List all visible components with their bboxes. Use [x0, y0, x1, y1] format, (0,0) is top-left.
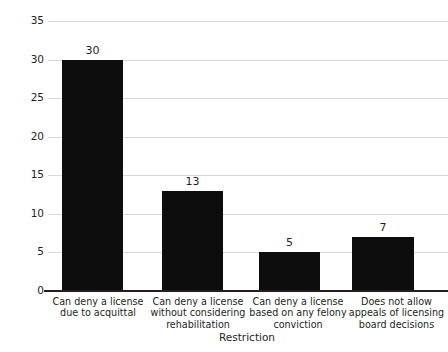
- y-axis-tick-label: 5: [20, 246, 44, 257]
- y-axis-tick-label: 0: [20, 285, 44, 296]
- bar-value-label: 13: [162, 175, 223, 188]
- x-axis-title: Restriction: [0, 331, 448, 343]
- x-axis-tick-label: Can deny a licensewithout consideringreh…: [148, 296, 248, 330]
- bar: [162, 191, 223, 291]
- x-axis-tick-label: Can deny a licensebased on any felonycon…: [248, 296, 348, 330]
- x-axis-tick-label-line: conviction: [248, 319, 348, 330]
- bar: [352, 237, 414, 291]
- bar: [62, 60, 123, 291]
- y-axis-tick-label: 10: [20, 208, 44, 219]
- bar-value-label: 5: [259, 236, 320, 249]
- y-axis-tick-label: 25: [20, 92, 44, 103]
- x-axis-tick-label-line: Can deny a license: [48, 296, 148, 307]
- plot-area: [48, 21, 448, 291]
- gridline: [48, 21, 448, 22]
- bar: [259, 252, 320, 291]
- x-axis-tick-label-line: due to acquittal: [48, 307, 148, 318]
- y-axis-tick-label: 15: [20, 169, 44, 180]
- x-axis-tick-label-line: board decisions: [345, 319, 448, 330]
- x-axis-line: [44, 290, 448, 292]
- x-axis-tick-label-line: Can deny a license: [148, 296, 248, 307]
- x-axis-tick-label: Does not allowappeals of licensingboard …: [345, 296, 448, 330]
- bar-chart: Number of states 05101520253035 301357 C…: [0, 0, 448, 352]
- x-axis-tick-label: Can deny a licensedue to acquittal: [48, 296, 148, 319]
- y-axis-tick-label: 20: [20, 131, 44, 142]
- bar-value-label: 7: [352, 221, 414, 234]
- x-axis-tick-label-line: appeals of licensing: [345, 307, 448, 318]
- x-axis-tick-label-line: without considering: [148, 307, 248, 318]
- y-axis-tick-label: 30: [20, 54, 44, 65]
- x-axis-tick-label-line: Does not allow: [345, 296, 448, 307]
- y-axis-tick-label: 35: [20, 15, 44, 26]
- x-axis-tick-label-line: Can deny a license: [248, 296, 348, 307]
- bar-value-label: 30: [62, 44, 123, 57]
- x-axis-tick-label-line: based on any felony: [248, 307, 348, 318]
- x-axis-tick-label-line: rehabilitation: [148, 319, 248, 330]
